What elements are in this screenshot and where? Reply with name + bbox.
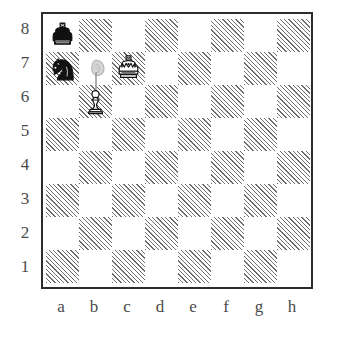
file-label-d: d	[143, 296, 177, 318]
board-square-a6[interactable]	[46, 85, 79, 118]
board-square-d4[interactable]	[145, 151, 178, 184]
board-square-d8[interactable]	[145, 19, 178, 52]
board-square-h6[interactable]	[277, 85, 310, 118]
board-square-b4[interactable]	[79, 151, 112, 184]
board-square-c8[interactable]	[112, 19, 145, 52]
board-square-a2[interactable]	[46, 217, 79, 250]
board-square-e3[interactable]	[178, 184, 211, 217]
rank-label-3: 3	[14, 182, 36, 216]
board-square-g8[interactable]	[244, 19, 277, 52]
promotion-stem	[95, 72, 97, 98]
file-label-f: f	[209, 296, 243, 318]
board-square-h7[interactable]	[277, 52, 310, 85]
board-frame	[41, 12, 313, 289]
board-grid	[46, 19, 310, 283]
board-square-g4[interactable]	[244, 151, 277, 184]
board-square-a4[interactable]	[46, 151, 79, 184]
board-square-a7[interactable]	[46, 52, 79, 85]
board-square-f6[interactable]	[211, 85, 244, 118]
board-square-h8[interactable]	[277, 19, 310, 52]
rank-label-2: 2	[14, 216, 36, 250]
rank-label-1: 1	[14, 250, 36, 284]
board-square-c1[interactable]	[112, 250, 145, 283]
board-square-d5[interactable]	[145, 118, 178, 151]
board-square-d2[interactable]	[145, 217, 178, 250]
file-label-e: e	[176, 296, 210, 318]
board-square-e5[interactable]	[178, 118, 211, 151]
board-square-d6[interactable]	[145, 85, 178, 118]
board-square-c6[interactable]	[112, 85, 145, 118]
board-square-f3[interactable]	[211, 184, 244, 217]
board-square-g2[interactable]	[244, 217, 277, 250]
board-square-b5[interactable]	[79, 118, 112, 151]
rank-label-8: 8	[14, 12, 36, 46]
rank-label-5: 5	[14, 114, 36, 148]
board-square-e7[interactable]	[178, 52, 211, 85]
board-square-f1[interactable]	[211, 250, 244, 283]
board-square-f8[interactable]	[211, 19, 244, 52]
board-square-a8[interactable]	[46, 19, 79, 52]
board-square-a5[interactable]	[46, 118, 79, 151]
board-square-b8[interactable]	[79, 19, 112, 52]
board-square-h1[interactable]	[277, 250, 310, 283]
rank-label-4: 4	[14, 148, 36, 182]
board-square-d7[interactable]	[145, 52, 178, 85]
board-square-g1[interactable]	[244, 250, 277, 283]
board-square-c2[interactable]	[112, 217, 145, 250]
board-square-c5[interactable]	[112, 118, 145, 151]
board-square-b3[interactable]	[79, 184, 112, 217]
board-square-c3[interactable]	[112, 184, 145, 217]
board-square-f7[interactable]	[211, 52, 244, 85]
board-square-d3[interactable]	[145, 184, 178, 217]
board-square-f5[interactable]	[211, 118, 244, 151]
board-square-c7[interactable]	[112, 52, 145, 85]
board-square-h3[interactable]	[277, 184, 310, 217]
board-square-d1[interactable]	[145, 250, 178, 283]
board-square-g3[interactable]	[244, 184, 277, 217]
board-square-e6[interactable]	[178, 85, 211, 118]
board-square-e4[interactable]	[178, 151, 211, 184]
file-label-b: b	[77, 296, 111, 318]
file-label-h: h	[275, 296, 309, 318]
board-square-g6[interactable]	[244, 85, 277, 118]
chess-diagram: 8 7 6 5 4 3 2 1 a b c d e f g h	[0, 0, 337, 339]
board-square-f4[interactable]	[211, 151, 244, 184]
board-square-c4[interactable]	[112, 151, 145, 184]
board-square-e1[interactable]	[178, 250, 211, 283]
board-square-e8[interactable]	[178, 19, 211, 52]
rank-label-7: 7	[14, 46, 36, 80]
file-label-c: c	[110, 296, 144, 318]
board-square-h2[interactable]	[277, 217, 310, 250]
board-square-a3[interactable]	[46, 184, 79, 217]
board-square-g7[interactable]	[244, 52, 277, 85]
board-square-f2[interactable]	[211, 217, 244, 250]
board-square-e2[interactable]	[178, 217, 211, 250]
board-square-a1[interactable]	[46, 250, 79, 283]
board-square-g5[interactable]	[244, 118, 277, 151]
file-label-g: g	[242, 296, 276, 318]
board-square-h5[interactable]	[277, 118, 310, 151]
board-square-b2[interactable]	[79, 217, 112, 250]
board-square-h4[interactable]	[277, 151, 310, 184]
file-label-a: a	[44, 296, 78, 318]
rank-label-6: 6	[14, 80, 36, 114]
board-square-b1[interactable]	[79, 250, 112, 283]
